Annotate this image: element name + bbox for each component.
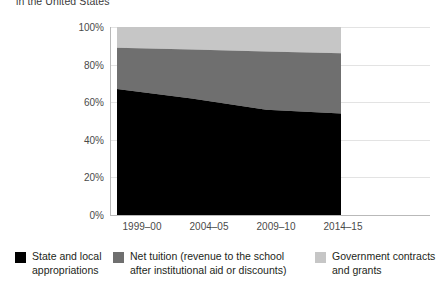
x-tick-label-2014-15: 2014–15 [324,221,363,232]
legend-swatch-state-local-icon [15,252,26,263]
legend-swatch-net-tuition-icon [113,252,124,263]
area-series-group [117,27,341,215]
y-tick-label-0: 0% [14,210,104,221]
y-axis-line [110,27,111,216]
y-tick-label-80: 80% [14,59,104,70]
legend-label-government-contracts: Government contracts and grants [332,250,435,277]
y-tick-label-40: 40% [14,134,104,145]
x-tick-label-2009-10: 2009–10 [257,221,296,232]
stacked-area-chart: in the United States 0% 20% 40% 60% 80% … [0,0,442,289]
chart-title: in the United States [16,0,110,7]
y-tick-label-60: 60% [14,97,104,108]
legend-item-government-contracts[interactable]: Government contracts and grants [315,250,442,277]
y-tick-label-20: 20% [14,172,104,183]
x-tick-label-2004-05: 2004–05 [190,221,229,232]
legend-label-net-tuition: Net tuition (revenue to the school after… [130,250,286,277]
legend-item-net-tuition[interactable]: Net tuition (revenue to the school after… [113,250,313,277]
y-tick-label-100: 100% [14,22,104,33]
chart-legend: State and local appropriations Net tuiti… [0,250,442,289]
legend-item-state-and-local[interactable]: State and local appropriations [15,250,110,277]
x-axis-line [110,215,430,216]
x-tick-label-1999-00: 1999–00 [123,221,162,232]
legend-swatch-gov-contracts-icon [315,252,326,263]
legend-label-state-and-local: State and local appropriations [32,250,101,277]
